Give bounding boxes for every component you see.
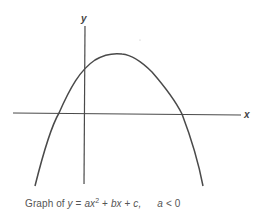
caption-plus1: +	[99, 198, 111, 209]
caption-plus2: +	[122, 198, 134, 209]
caption-ax: ax	[84, 198, 95, 209]
parabola-curve	[35, 54, 203, 186]
y-axis-label: y	[80, 13, 87, 24]
caption-cond: < 0	[163, 198, 180, 209]
caption-prefix: Graph of	[25, 198, 68, 209]
x-axis-label: x	[243, 109, 250, 120]
caption-bx: bx	[111, 198, 122, 209]
x-axis	[13, 113, 241, 115]
caption: Graph of y = ax2 + bx + c,a < 0	[25, 197, 180, 209]
parabola-graph: y x	[0, 0, 261, 221]
caption-eq: =	[73, 198, 85, 209]
speck	[139, 39, 140, 40]
caption-c: c,	[133, 198, 141, 209]
y-axis	[84, 26, 85, 184]
